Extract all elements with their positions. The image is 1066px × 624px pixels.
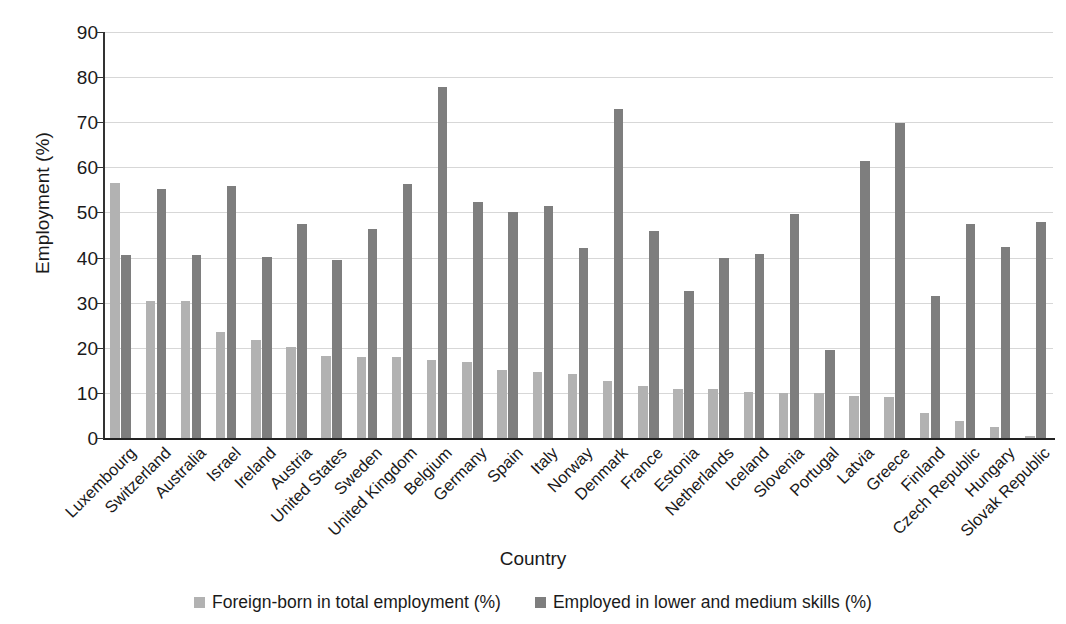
bar <box>181 301 191 438</box>
y-axis-line <box>103 32 105 439</box>
bar-group <box>279 32 314 438</box>
bar-group <box>314 32 349 438</box>
bar <box>544 206 554 438</box>
bar-group <box>631 32 666 438</box>
bar <box>966 224 976 438</box>
bar <box>192 255 202 438</box>
y-axis-tickmark <box>96 32 104 33</box>
bar <box>357 357 367 438</box>
bar <box>251 340 261 438</box>
bar-group <box>420 32 455 438</box>
bar-group <box>1018 32 1053 438</box>
y-axis-tickmark <box>96 122 104 123</box>
legend-item: Foreign-born in total employment (%) <box>194 592 501 613</box>
bar-group <box>807 32 842 438</box>
bar <box>297 224 307 438</box>
bar-group <box>772 32 807 438</box>
y-axis-title: Employment (%) <box>32 98 54 308</box>
bar <box>146 301 156 438</box>
x-axis-tick-labels: LuxembourgSwitzerlandAustraliaIsraelIrel… <box>103 440 1055 545</box>
y-axis-tick-labels: 9080706050403020100 <box>58 32 98 438</box>
bar <box>438 87 448 438</box>
y-axis-tick-label: 80 <box>58 68 98 87</box>
bar <box>860 161 870 438</box>
bar-series-container <box>103 32 1053 438</box>
y-axis-tickmark <box>96 212 104 213</box>
y-axis-tick-label: 0 <box>58 429 98 448</box>
bar-group <box>947 32 982 438</box>
bar <box>649 231 659 439</box>
bar <box>931 296 941 438</box>
y-axis-tick-label: 50 <box>58 203 98 222</box>
bar-group <box>877 32 912 438</box>
bar-group <box>596 32 631 438</box>
bar <box>744 392 754 438</box>
bar <box>121 255 131 438</box>
bar <box>568 374 578 438</box>
y-axis-tickmark <box>96 77 104 78</box>
bar <box>603 381 613 438</box>
bar <box>814 393 824 438</box>
bar <box>884 397 894 438</box>
bar <box>684 291 694 439</box>
bar <box>920 413 930 438</box>
bar <box>825 350 835 438</box>
bar <box>110 183 120 438</box>
bar-group <box>842 32 877 438</box>
plot-area <box>103 32 1053 438</box>
x-axis-tick-label: Spain <box>484 444 526 486</box>
y-axis-tickmark <box>96 303 104 304</box>
bar <box>990 427 1000 438</box>
bar <box>755 254 765 439</box>
bar-group <box>666 32 701 438</box>
bar-group <box>138 32 173 438</box>
bar-group <box>103 32 138 438</box>
legend-swatch-dark-icon <box>535 597 546 608</box>
bar <box>614 109 624 438</box>
bar <box>849 396 859 438</box>
bar-group <box>525 32 560 438</box>
bar <box>427 360 437 438</box>
bar-group <box>209 32 244 438</box>
bar <box>638 386 648 438</box>
bar <box>790 214 800 438</box>
y-axis-tick-label: 20 <box>58 338 98 357</box>
bar <box>473 202 483 438</box>
bar <box>286 347 296 438</box>
bar-group <box>455 32 490 438</box>
bar <box>462 362 472 438</box>
y-axis-tickmark <box>96 438 104 439</box>
bar <box>533 372 543 438</box>
legend-label: Foreign-born in total employment (%) <box>212 592 501 613</box>
bar <box>895 123 905 438</box>
bar-chart-figure: Employment (%) 9080706050403020100 Luxem… <box>0 0 1066 624</box>
bar <box>719 258 729 438</box>
bar <box>497 370 507 438</box>
y-axis-tick-label: 60 <box>58 158 98 177</box>
bar <box>708 389 718 438</box>
y-axis-tickmark <box>96 167 104 168</box>
bar <box>157 189 167 438</box>
y-axis-tick-label: 30 <box>58 293 98 312</box>
bar <box>216 332 226 438</box>
y-axis-tick-label: 70 <box>58 113 98 132</box>
bar <box>227 186 237 438</box>
bar-group <box>490 32 525 438</box>
bar-group <box>736 32 771 438</box>
bar <box>955 421 965 438</box>
y-axis-tick-label: 90 <box>58 23 98 42</box>
bar <box>579 248 589 438</box>
x-axis-title: Country <box>0 548 1066 570</box>
legend-label: Employed in lower and medium skills (%) <box>553 592 872 613</box>
bar <box>332 260 342 438</box>
y-axis-tickmark <box>96 348 104 349</box>
bar-group <box>244 32 279 438</box>
bar <box>321 356 331 438</box>
bar <box>392 357 402 438</box>
bar <box>1036 222 1046 438</box>
bar-group <box>349 32 384 438</box>
bar <box>368 229 378 438</box>
bar-group <box>701 32 736 438</box>
bar-group <box>983 32 1018 438</box>
y-axis-tick-label: 10 <box>58 383 98 402</box>
